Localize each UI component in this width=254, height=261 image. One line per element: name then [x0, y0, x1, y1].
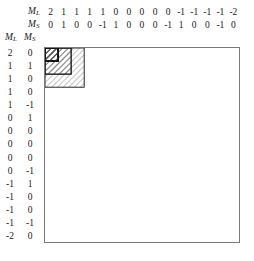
diagonal-blocks [45, 48, 84, 87]
column-value-ms-14: 0 [227, 19, 240, 32]
column-value-ms-6: 0 [122, 19, 135, 32]
column-value-ms-12: 0 [201, 19, 214, 32]
row-label-12: -10 [0, 204, 42, 217]
row-value-ms-10: 1 [20, 178, 40, 191]
column-value-ms-5: 1 [109, 19, 122, 32]
column-value-ms-2: 0 [70, 19, 83, 32]
column-value-ml-10: -1 [175, 6, 188, 19]
column-value-ms-13: -1 [214, 19, 227, 32]
column-value-ml-4: 1 [96, 6, 109, 19]
column-value-ms-9: -1 [162, 19, 175, 32]
column-header-values-ml: 2111100000-1-1-1-1-2 [44, 6, 240, 19]
row-value-ms-5: 1 [20, 112, 40, 125]
row-value-ms-0: 0 [20, 47, 40, 60]
column-value-ml-0: 2 [44, 6, 57, 19]
block-diagonal-matrix-diagram: ML MS 2111100000-1-1-1-1-2 0100-11000-11… [0, 0, 254, 261]
row-value-ms-8: 0 [20, 152, 40, 165]
row-label-5: 01 [0, 112, 42, 125]
column-value-ml-11: -1 [188, 6, 201, 19]
column-header-label-ml: ML [28, 6, 40, 19]
row-label-14: -20 [0, 230, 42, 243]
column-value-ms-4: -1 [96, 19, 109, 32]
diagonal-block-10 [45, 48, 58, 61]
row-value-ms-6: 0 [20, 125, 40, 138]
row-label-2: 10 [0, 73, 42, 86]
row-label-0: 20 [0, 47, 42, 60]
row-value-ml-3: 1 [0, 86, 20, 99]
column-value-ml-6: 0 [122, 6, 135, 19]
row-value-ms-9: -1 [20, 165, 40, 178]
column-value-ml-2: 1 [70, 6, 83, 19]
row-value-ml-9: 0 [0, 165, 20, 178]
row-value-ml-7: 0 [0, 138, 20, 151]
row-value-ml-5: 0 [0, 112, 20, 125]
row-value-ms-12: 0 [20, 204, 40, 217]
row-value-ms-7: 0 [20, 138, 40, 151]
row-label-4: 1-1 [0, 99, 42, 112]
column-value-ml-5: 0 [109, 6, 122, 19]
row-value-ms-2: 0 [20, 73, 40, 86]
row-label-11: -10 [0, 191, 42, 204]
matrix-grid [44, 47, 240, 243]
row-label-1: 11 [0, 60, 42, 73]
row-value-ms-14: 0 [20, 230, 40, 243]
row-value-ml-2: 1 [0, 73, 20, 86]
column-header-values-ms: 0100-11000-1100-10 [44, 19, 240, 32]
column-value-ml-14: -2 [227, 6, 240, 19]
row-value-ml-4: 1 [0, 99, 20, 112]
row-value-ml-12: -1 [0, 204, 20, 217]
column-value-ms-11: 0 [188, 19, 201, 32]
row-value-ml-14: -2 [0, 230, 20, 243]
row-value-ms-3: 0 [20, 86, 40, 99]
column-value-ml-3: 1 [83, 6, 96, 19]
column-header-label-ms: MS [28, 19, 39, 32]
column-value-ml-7: 0 [135, 6, 148, 19]
column-value-ms-7: 0 [135, 19, 148, 32]
row-value-ms-11: 0 [20, 191, 40, 204]
column-value-ml-1: 1 [57, 6, 70, 19]
row-value-ml-0: 2 [0, 47, 20, 60]
column-value-ms-10: 1 [175, 19, 188, 32]
row-value-ms-4: -1 [20, 99, 40, 112]
row-label-13: -1-1 [0, 217, 42, 230]
column-value-ml-9: 0 [162, 6, 175, 19]
column-value-ms-8: 0 [149, 19, 162, 32]
row-header-values: 201110101-1010000000-1-11-10-10-1-1-20 [0, 47, 42, 243]
row-label-8: 00 [0, 152, 42, 165]
row-label-10: -11 [0, 178, 42, 191]
row-value-ml-13: -1 [0, 217, 20, 230]
row-header-label-ms: MS [24, 32, 35, 45]
row-label-3: 10 [0, 86, 42, 99]
row-header-label-ml: ML [5, 32, 17, 45]
row-value-ml-10: -1 [0, 178, 20, 191]
row-label-6: 00 [0, 125, 42, 138]
row-value-ml-6: 0 [0, 125, 20, 138]
column-value-ml-13: -1 [214, 6, 227, 19]
matrix-blocks-svg [45, 48, 241, 244]
row-value-ml-11: -1 [0, 191, 20, 204]
column-value-ms-0: 0 [44, 19, 57, 32]
row-label-7: 00 [0, 138, 42, 151]
column-value-ml-12: -1 [201, 6, 214, 19]
row-label-9: 0-1 [0, 165, 42, 178]
column-value-ml-8: 0 [149, 6, 162, 19]
row-value-ml-1: 1 [0, 60, 20, 73]
row-value-ml-8: 0 [0, 152, 20, 165]
column-value-ms-3: 0 [83, 19, 96, 32]
column-value-ms-1: 1 [57, 19, 70, 32]
row-value-ms-1: 1 [20, 60, 40, 73]
row-value-ms-13: -1 [20, 217, 40, 230]
